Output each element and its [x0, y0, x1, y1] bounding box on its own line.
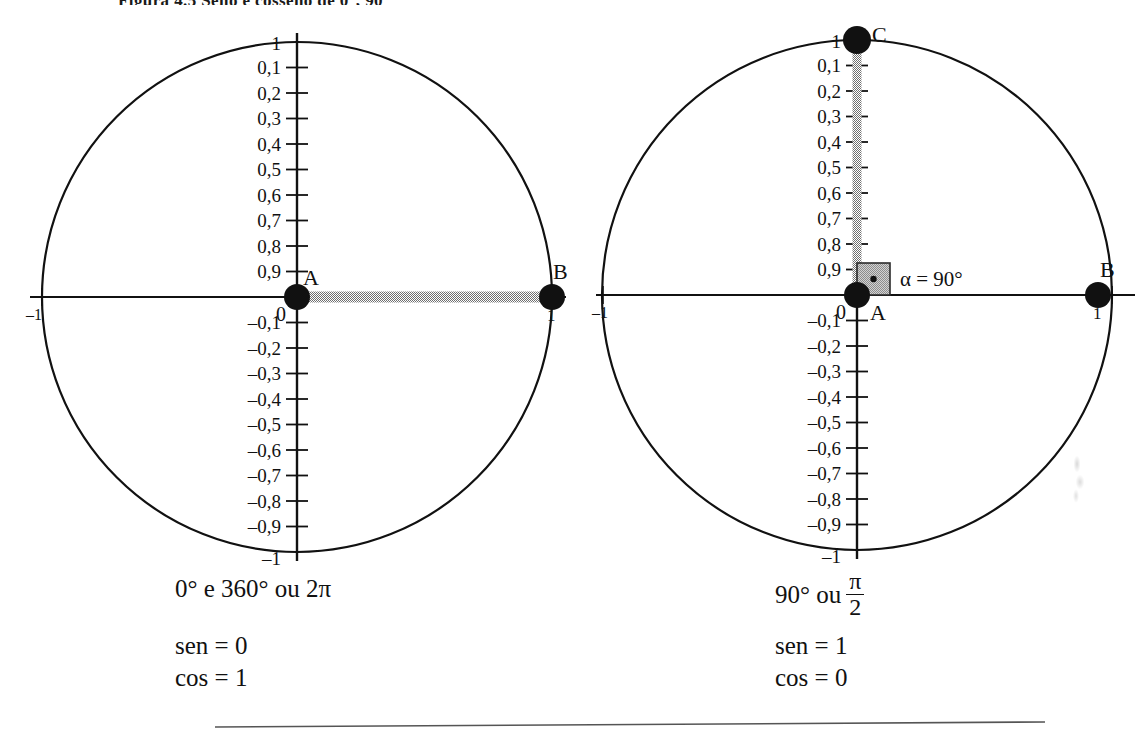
- right-circle-group: [596, 26, 1135, 559]
- bottom-rule: [215, 722, 1045, 727]
- fraction-denominator: 2: [846, 595, 864, 620]
- fraction-numerator: π: [846, 570, 864, 593]
- right-point-b-label: B: [1100, 257, 1115, 282]
- left-point-b-label: B: [553, 259, 568, 284]
- right-y-tick-label-06: 0,6: [817, 183, 841, 204]
- left-y-tick-label-n03: –0,3: [247, 363, 281, 384]
- left-y-tick-label-03: 0,3: [257, 108, 281, 129]
- left-caption-cos: cos = 1: [175, 664, 247, 692]
- left-point-a-label: A: [303, 265, 319, 290]
- right-y-tick-label-n06: –0,6: [807, 438, 841, 459]
- right-caption-angle: 90° ouπ2: [775, 572, 864, 622]
- right-point-a-marker: [844, 282, 870, 308]
- right-y-tick-label-04: 0,4: [817, 132, 841, 153]
- right-y-tick-label-07: 0,7: [817, 208, 841, 229]
- right-y-tick-label-01: 0,1: [817, 55, 841, 76]
- right-y-tick-label-n03: –0,3: [807, 361, 841, 382]
- right-y-tick-label-03: 0,3: [817, 106, 841, 127]
- right-point-a-label: A: [870, 300, 886, 325]
- left-y-tick-label-n04: –0,4: [247, 389, 282, 410]
- right-y-tick-label-n07: –0,7: [807, 463, 841, 484]
- right-angle-annotation-label: α = 90°: [900, 267, 963, 291]
- right-caption-cos: cos = 0: [775, 664, 847, 692]
- left-axis-right-label: 1: [547, 306, 556, 325]
- left-y-tick-label-n06: –0,6: [247, 440, 281, 461]
- left-axis-bottom-label: –1: [261, 548, 281, 569]
- left-y-tick-label-n07: –0,7: [247, 465, 281, 486]
- right-axis-top-label: 1: [832, 31, 842, 52]
- left-y-tick-label-n09: –0,9: [247, 516, 281, 537]
- right-y-tick-label-09: 0,9: [817, 259, 841, 280]
- left-y-tick-label-n05: –0,5: [247, 414, 281, 435]
- right-caption-angle-prefix: 90° ou: [775, 581, 841, 608]
- right-y-tick-label-n08: –0,8: [807, 489, 841, 510]
- left-y-tick-label-02: 0,2: [257, 83, 281, 104]
- right-y-tick-label-08: 0,8: [817, 234, 841, 255]
- right-caption-sen: sen = 1: [775, 632, 847, 660]
- left-y-tick-label-n08: –0,8: [247, 491, 281, 512]
- trigonometric-circles-diagram: 1 0,9 0,8 0,7 0,6 0,5 0,4 0,3 0,2 0,1 –0…: [0, 0, 1147, 737]
- left-y-tick-label-n02: –0,2: [247, 338, 281, 359]
- right-axis-right-label: 1: [1093, 304, 1102, 323]
- left-y-tick-label-09: 0,9: [257, 261, 281, 282]
- left-caption-angle: 0° e 360° ou 2π: [175, 575, 331, 603]
- left-y-tick-label-06: 0,6: [257, 185, 281, 206]
- left-y-tick-label-05: 0,5: [257, 159, 281, 180]
- left-caption-sen: sen = 0: [175, 632, 247, 660]
- right-y-tick-label-n02: –0,2: [807, 336, 841, 357]
- right-point-c-label: C: [872, 22, 887, 47]
- left-y-tick-label-08: 0,8: [257, 236, 281, 257]
- right-y-tick-label-n04: –0,4: [807, 387, 842, 408]
- right-caption-fraction: π2: [846, 570, 864, 620]
- right-point-c-marker: [843, 26, 871, 54]
- right-y-tick-label-02: 0,2: [817, 81, 841, 102]
- left-y-tick-label-07: 0,7: [257, 210, 281, 231]
- figure-page: Figura 4.5 Seno e cosseno de 0°, 90°: [0, 0, 1147, 737]
- right-origin-label: 0: [836, 301, 846, 323]
- right-axis-bottom-label: –1: [821, 546, 841, 567]
- left-y-tick-label-04: 0,4: [257, 134, 281, 155]
- right-y-tick-label-n09: –0,9: [807, 514, 841, 535]
- left-circle-group: [30, 33, 566, 561]
- right-y-tick-label-05: 0,5: [817, 157, 841, 178]
- left-origin-label: 0: [276, 303, 286, 325]
- left-axis-top-label: 1: [272, 33, 282, 54]
- right-y-tick-label-n05: –0,5: [807, 412, 841, 433]
- left-axis-left-label: –1: [25, 306, 42, 323]
- left-y-tick-label-01: 0,1: [257, 57, 281, 78]
- right-axis-left-label: –1: [591, 304, 608, 321]
